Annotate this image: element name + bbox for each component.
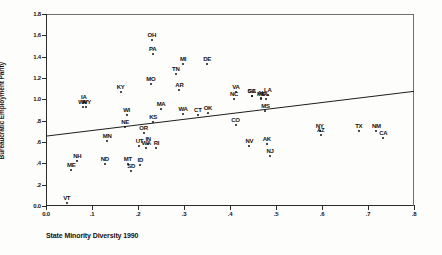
data-point [206, 63, 208, 65]
y-tick-label: 1.8 [33, 11, 41, 17]
x-tick-label: .6 [320, 211, 325, 217]
y-axis-title: Bureaucratic Employment Parity [0, 62, 5, 159]
data-point [66, 202, 68, 204]
x-tick-label: .8 [412, 211, 417, 217]
data-point [139, 164, 141, 166]
data-point-label: TX [355, 123, 362, 129]
scatter-plot-figure: 0.0.2.4.6.81.01.21.41.61.8 0.0.1.2.3.4.5… [0, 0, 442, 255]
data-point [106, 140, 108, 142]
data-point [235, 124, 237, 126]
x-tick-label: .7 [366, 211, 371, 217]
data-point [320, 134, 322, 136]
data-point-label: NV [245, 138, 253, 144]
data-point-label: OK [204, 105, 212, 111]
data-point [182, 63, 184, 65]
data-point [150, 83, 152, 85]
data-point [155, 147, 157, 149]
data-point-label: KS [149, 114, 157, 120]
x-tick [414, 205, 415, 210]
data-point [82, 106, 84, 108]
data-point [207, 112, 209, 114]
y-tick-label: .2 [36, 182, 41, 188]
data-point [130, 170, 132, 172]
data-point [85, 106, 87, 108]
data-point-label: VA [232, 84, 239, 90]
data-point [260, 98, 262, 100]
y-tick-label: 1.0 [33, 96, 41, 102]
data-point [152, 53, 154, 55]
data-point [197, 114, 199, 116]
x-tick-label: .2 [136, 211, 141, 217]
data-point [375, 130, 377, 132]
data-point-label: WI [123, 107, 130, 113]
data-point-label: TN [172, 66, 179, 72]
data-point [382, 137, 384, 139]
data-point-label: WA [142, 140, 151, 146]
y-tick-label: .8 [36, 118, 41, 124]
data-point [70, 169, 72, 171]
data-point [265, 98, 267, 100]
data-point-label: OH [148, 32, 156, 38]
data-point [104, 163, 106, 165]
y-tick-label: 0.0 [33, 203, 41, 209]
data-point-label: MS [261, 103, 269, 109]
data-point [266, 143, 268, 145]
data-point-label: MO [146, 76, 155, 82]
y-tick-label: 1.4 [33, 54, 41, 60]
data-point [152, 121, 154, 123]
data-point-label: VT [63, 195, 70, 201]
y-tick-label: 1.2 [33, 75, 41, 81]
data-point-label: AK [263, 136, 271, 142]
data-point [143, 132, 145, 134]
regression-fit-line [46, 14, 414, 206]
data-point [267, 94, 269, 96]
data-point [160, 108, 162, 110]
data-point-label: WY [82, 99, 91, 105]
data-point-label: NM [372, 123, 381, 129]
data-point-label: WA [179, 106, 188, 112]
data-point [120, 91, 122, 93]
data-point-label: NH [73, 153, 81, 159]
data-point [358, 130, 360, 132]
data-point-label: OR [139, 125, 147, 131]
data-point [178, 89, 180, 91]
data-point-label: NE [121, 119, 129, 125]
data-point-label: SD [127, 163, 135, 169]
data-point [264, 110, 266, 112]
x-axis-title: State Minority Diversity 1990 [46, 232, 138, 240]
y-tick-label: 1.6 [33, 32, 41, 38]
data-point-label: DE [203, 56, 211, 62]
x-tick-label: .5 [274, 211, 279, 217]
data-point-label: LA [264, 87, 271, 93]
x-tick-label: .1 [90, 211, 95, 217]
data-point-label: CT [194, 107, 201, 113]
x-tick-label: .4 [228, 211, 233, 217]
data-point-label: RI [154, 140, 159, 146]
data-point [182, 113, 184, 115]
data-point-label: CO [231, 117, 239, 123]
data-point-label: AZ [317, 127, 324, 133]
data-point [138, 145, 140, 147]
data-point [76, 160, 78, 162]
data-point [175, 73, 177, 75]
data-point [126, 114, 128, 116]
data-point-label: NC [230, 91, 238, 97]
data-point-label: MI [180, 56, 186, 62]
data-point [269, 155, 271, 157]
data-point-label: AR [175, 82, 183, 88]
data-point [233, 98, 235, 100]
data-point-label: MT [124, 156, 132, 162]
data-point [251, 95, 253, 97]
data-point-label: NJ [266, 148, 273, 154]
data-point [248, 145, 250, 147]
plot-area: 0.0.2.4.6.81.01.21.41.61.8 0.0.1.2.3.4.5… [46, 14, 414, 206]
data-point [124, 126, 126, 128]
data-point-label: KY [117, 84, 125, 90]
data-point-label: MN [103, 133, 112, 139]
data-point-label: ID [138, 157, 143, 163]
y-tick-label: .6 [36, 139, 41, 145]
x-tick-label: 0.0 [42, 211, 50, 217]
data-point-label: PA [149, 46, 156, 52]
data-point-label: ME [67, 162, 75, 168]
x-tick-label: .3 [182, 211, 187, 217]
